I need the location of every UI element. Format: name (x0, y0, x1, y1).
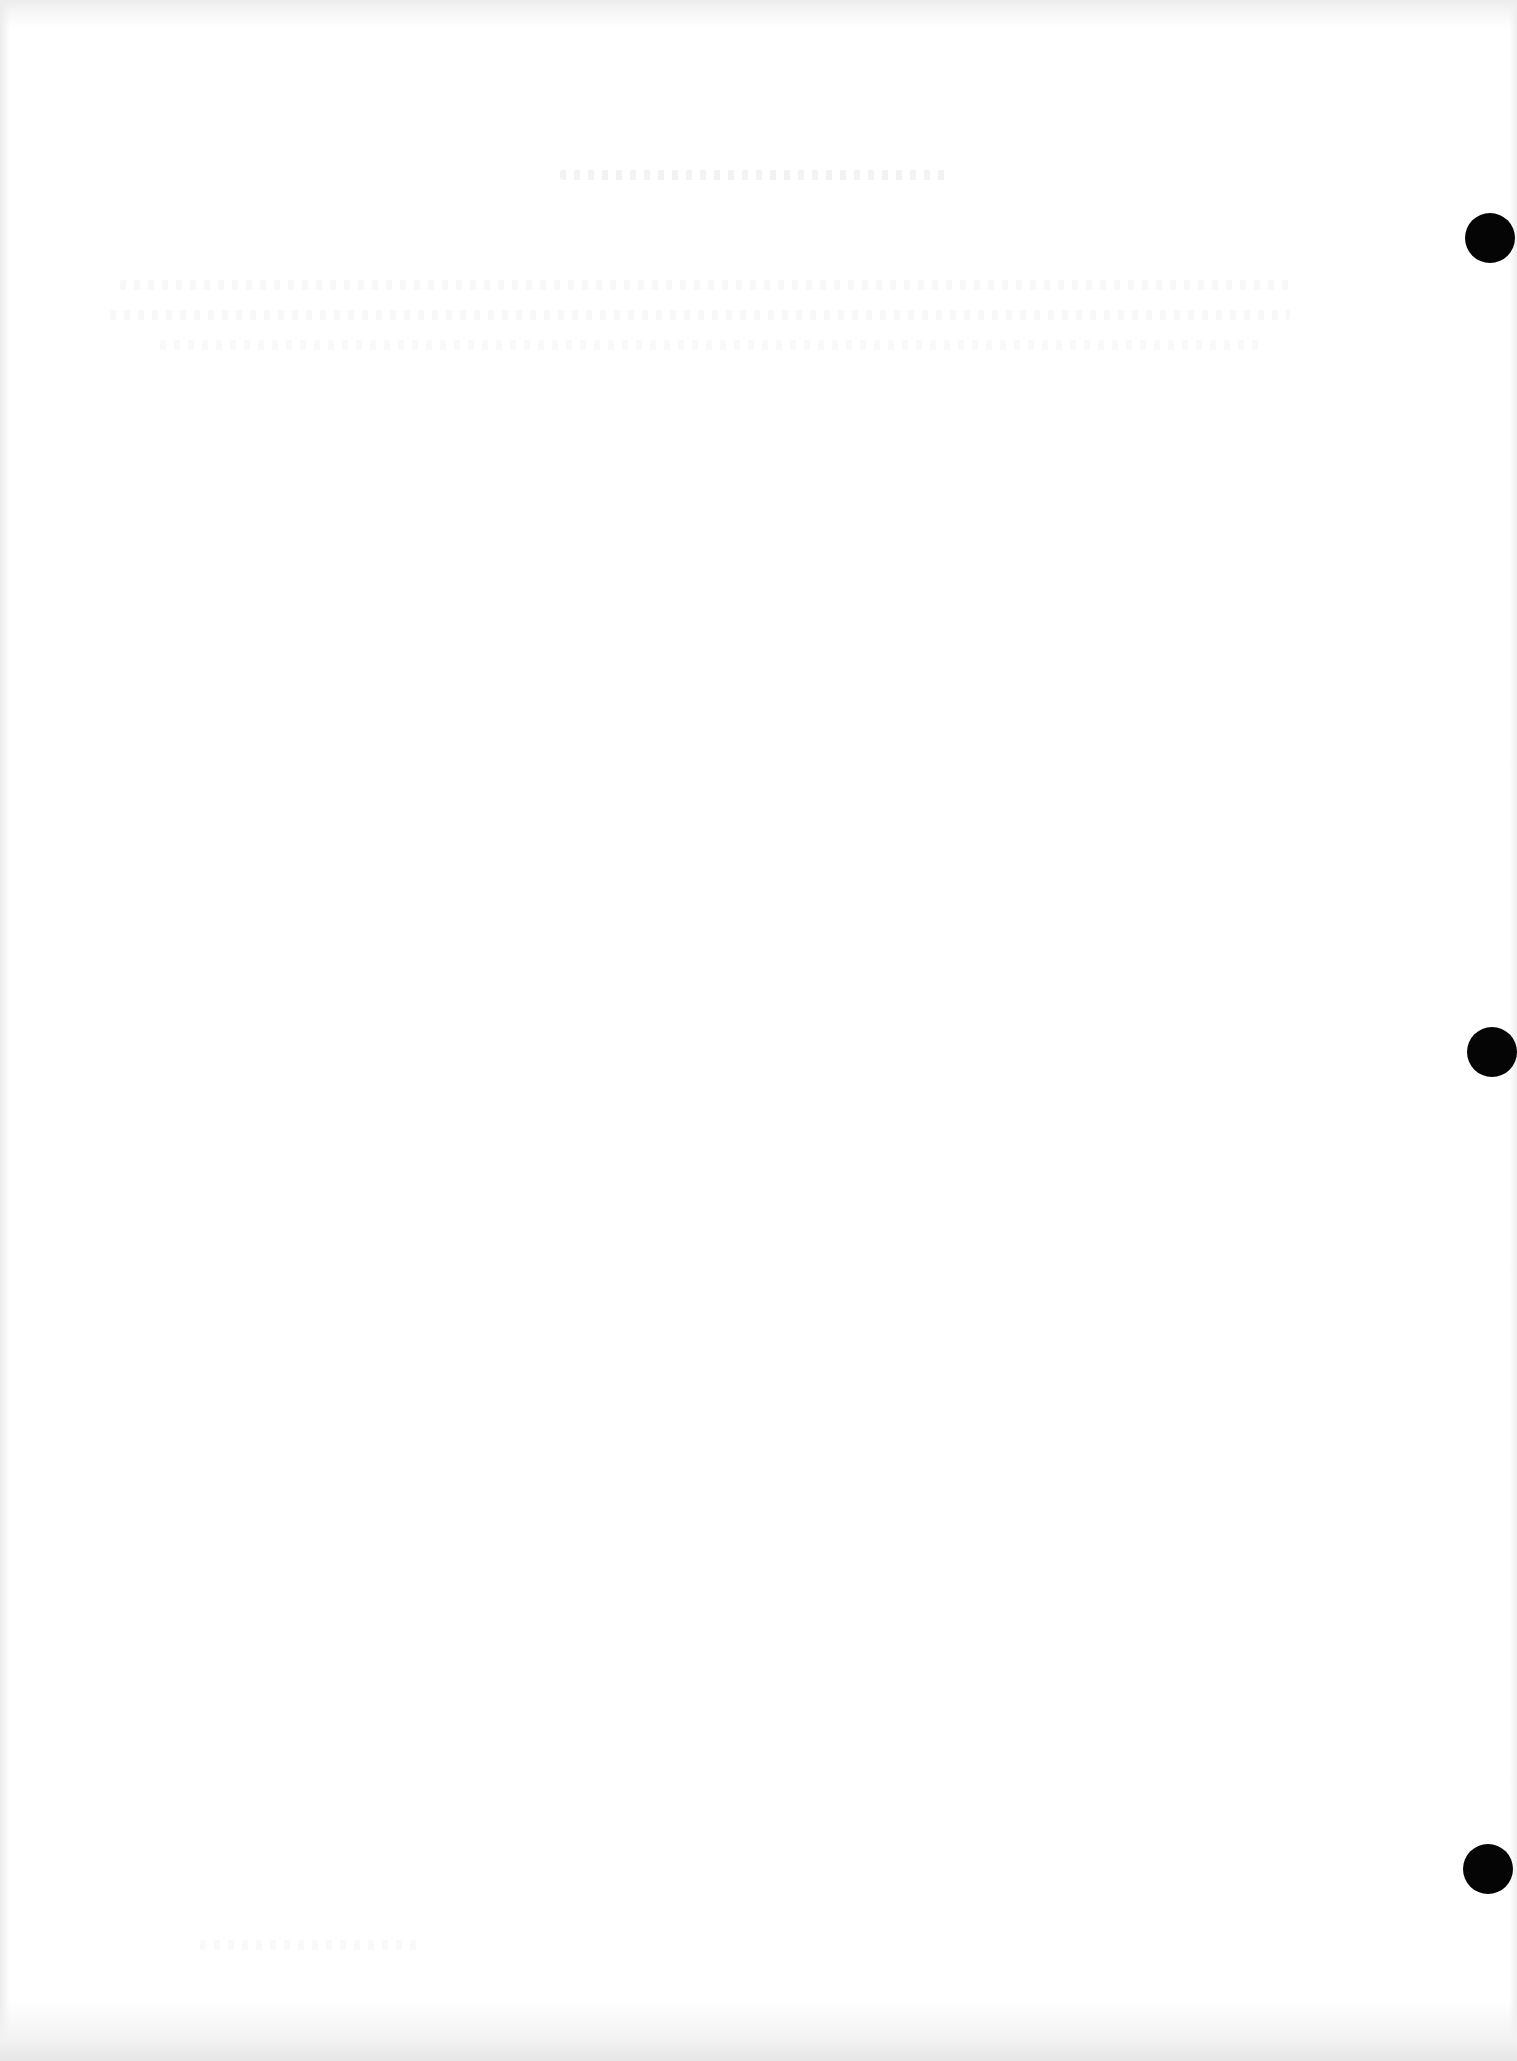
scan-edge-top (0, 0, 1517, 28)
scan-edge-right (1509, 0, 1517, 2061)
bleed-through-line (120, 280, 1290, 290)
scan-edge-left (0, 0, 10, 2061)
bleed-through-line (200, 1940, 420, 1950)
bleed-through-line (160, 340, 1260, 350)
scanned-page (0, 0, 1517, 2061)
punch-hole-middle (1467, 1027, 1517, 1077)
bleed-through-line (110, 310, 1290, 320)
punch-hole-top (1465, 213, 1515, 263)
scan-edge-bottom (0, 2001, 1517, 2061)
bleed-through-line (560, 170, 950, 180)
punch-hole-bottom (1463, 1844, 1513, 1894)
